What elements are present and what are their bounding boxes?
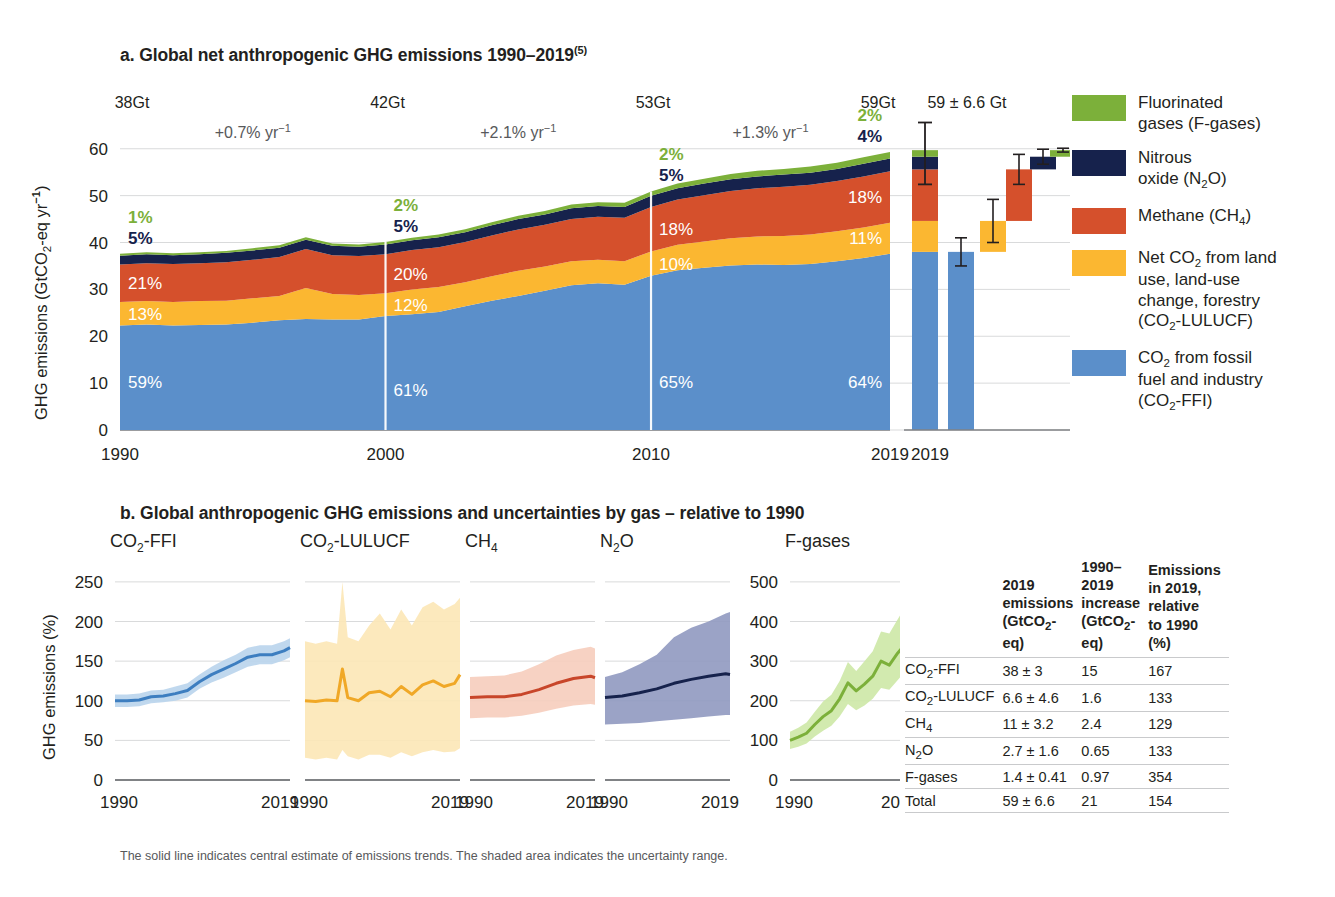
panel-b-xtick-N2O-start: 1990 bbox=[590, 793, 628, 812]
panel-a-xtick-2019: 2019 bbox=[871, 445, 909, 464]
panel-b-band-N2O bbox=[605, 612, 730, 725]
table-cell-emissions: 6.6 ± 4.6 bbox=[1002, 684, 1081, 711]
panel-b-ytick-F-gases-200: 200 bbox=[750, 692, 778, 711]
panel-b-ytick-F-gases-100: 100 bbox=[750, 731, 778, 750]
table-cell-relative: 129 bbox=[1148, 711, 1229, 738]
legend-item-fgases: Fluorinatedgases (F-gases) bbox=[1072, 93, 1334, 134]
panel-b-band-CH4 bbox=[470, 647, 595, 718]
table-cell-increase: 15 bbox=[1081, 657, 1148, 684]
table-row: CO2-LULUCF6.6 ± 4.61.6133 bbox=[905, 684, 1229, 711]
summary-table: 2019emissions(GtCO2-eq)1990–2019increase… bbox=[905, 558, 1229, 813]
panel-b-subplot-title-CO2-FFI: CO2-FFI bbox=[110, 531, 177, 555]
table-cell-increase: 0.65 bbox=[1081, 738, 1148, 765]
panel-a-title-superscript: (5) bbox=[574, 44, 587, 56]
panel-b-xtick-F-gases-start: 1990 bbox=[775, 793, 813, 812]
table-row: F-gases1.4 ± 0.410.97354 bbox=[905, 765, 1229, 789]
panel-a-chart: 010203040506038Gt42Gt53Gt59Gt+0.7% yr−1+… bbox=[0, 70, 1070, 470]
panel-a-growth-1: +2.1% yr−1 bbox=[480, 122, 556, 141]
panel-a-xtick-1990: 1990 bbox=[101, 445, 139, 464]
panel-a-waterfall-xtick: 2019 bbox=[911, 445, 949, 464]
panel-a-total-2010: 53Gt bbox=[636, 94, 671, 111]
panel-b-xtick-F-gases-end: 2019 bbox=[881, 793, 900, 812]
table-cell-increase: 2.4 bbox=[1081, 711, 1148, 738]
table-cell-emissions: 38 ± 3 bbox=[1002, 657, 1081, 684]
legend-swatch-fgases bbox=[1072, 95, 1126, 121]
table-row: CO2-FFI38 ± 315167 bbox=[905, 657, 1229, 684]
table-header-1: 2019emissions(GtCO2-eq) bbox=[1002, 558, 1081, 657]
panel-a-ytick-30: 30 bbox=[89, 280, 108, 299]
panel-b-band-F-gases bbox=[790, 598, 900, 749]
panel-b-ytick-F-gases-300: 300 bbox=[750, 652, 778, 671]
panel-a-share-n2o-1990: 5% bbox=[128, 229, 153, 248]
legend-item-lulucf: Net CO2 from landuse, land-usechange, fo… bbox=[1072, 248, 1334, 334]
panel-a-waterfall-total-seg-0 bbox=[912, 252, 938, 430]
panel-a-growth-0: +0.7% yr−1 bbox=[215, 122, 291, 141]
legend-item-ffi: CO2 from fossilfuel and industry(CO2-FFI… bbox=[1072, 348, 1334, 414]
panel-a-share-fgases-2019: 2% bbox=[857, 106, 882, 125]
figure-footnote: The solid line indicates central estimat… bbox=[120, 849, 728, 863]
panel-b-xtick-CO2-LULUCF-start: 1990 bbox=[290, 793, 328, 812]
panel-b-title: b. Global anthropogenic GHG emissions an… bbox=[120, 503, 804, 524]
table-cell-gas: N2O bbox=[905, 738, 1002, 765]
legend-label-fgases: Fluorinatedgases (F-gases) bbox=[1138, 93, 1261, 134]
panel-b-subplot-title-F-gases: F-gases bbox=[785, 531, 850, 551]
table-cell-gas: Total bbox=[905, 789, 1002, 813]
panel-b-band-CO2-LULUCF bbox=[305, 582, 460, 760]
panel-a-share-ffi-2019: 64% bbox=[848, 373, 882, 392]
panel-a-share-fgases-2010: 2% bbox=[659, 145, 684, 164]
panel-a-ytick-10: 10 bbox=[89, 374, 108, 393]
panel-b-subplot-title-CH4: CH4 bbox=[465, 531, 498, 555]
table-cell-gas: CO2-FFI bbox=[905, 657, 1002, 684]
table-cell-emissions: 59 ± 6.6 bbox=[1002, 789, 1081, 813]
panel-a-share-lulucf-2019: 11% bbox=[849, 229, 882, 248]
panel-a-share-n2o-2010: 5% bbox=[659, 166, 684, 185]
panel-b-charts: CO2-FFI05010015020025019902019CO2-LULUCF… bbox=[0, 525, 900, 845]
table-cell-increase: 1.6 bbox=[1081, 684, 1148, 711]
legend-label-n2o: Nitrousoxide (N2O) bbox=[1138, 148, 1227, 191]
table-cell-relative: 354 bbox=[1148, 765, 1229, 789]
table-cell-relative: 133 bbox=[1148, 684, 1229, 711]
panel-b-ytick-F-gases-400: 400 bbox=[750, 613, 778, 632]
panel-a-ytick-50: 50 bbox=[89, 187, 108, 206]
panel-a-ytick-20: 20 bbox=[89, 327, 108, 346]
legend-item-ch4: Methane (CH4) bbox=[1072, 206, 1334, 234]
panel-b-ytick-CO2-FFI-250: 250 bbox=[75, 573, 103, 592]
table-cell-emissions: 1.4 ± 0.41 bbox=[1002, 765, 1081, 789]
panel-a-share-ffi-1990: 59% bbox=[128, 373, 162, 392]
table-cell-relative: 133 bbox=[1148, 738, 1229, 765]
panel-b-xtick-N2O-end: 2019 bbox=[701, 793, 739, 812]
panel-b-title-text: b. Global anthropogenic GHG emissions an… bbox=[120, 503, 804, 523]
table-header-0 bbox=[905, 558, 1002, 657]
panel-a-xtick-2000: 2000 bbox=[367, 445, 405, 464]
legend-item-n2o: Nitrousoxide (N2O) bbox=[1072, 148, 1334, 191]
panel-b-ytick-CO2-FFI-200: 200 bbox=[75, 613, 103, 632]
panel-a-share-fgases-2000: 2% bbox=[394, 196, 419, 215]
panel-b-ytick-F-gases-0: 0 bbox=[769, 771, 778, 790]
panel-a-share-ffi-2010: 65% bbox=[659, 373, 693, 392]
table-cell-emissions: 11 ± 3.2 bbox=[1002, 711, 1081, 738]
panel-a-title-text: a. Global net anthropogenic GHG emission… bbox=[120, 45, 574, 65]
panel-b-subplot-title-N2O: N2O bbox=[600, 531, 634, 555]
table-cell-increase: 21 bbox=[1081, 789, 1148, 813]
panel-a-total-1990: 38Gt bbox=[115, 94, 150, 111]
panel-a-ytick-60: 60 bbox=[89, 140, 108, 159]
table-cell-gas: CO2-LULUCF bbox=[905, 684, 1002, 711]
panel-b-subplot-title-CO2-LULUCF: CO2-LULUCF bbox=[300, 531, 410, 555]
panel-a-share-lulucf-2010: 10% bbox=[659, 255, 693, 274]
panel-a-xtick-2010: 2010 bbox=[632, 445, 670, 464]
legend-label-lulucf: Net CO2 from landuse, land-usechange, fo… bbox=[1138, 248, 1277, 334]
legend-swatch-lulucf bbox=[1072, 250, 1126, 276]
table-cell-increase: 0.97 bbox=[1081, 765, 1148, 789]
panel-a-waterfall-bar-4 bbox=[1050, 150, 1070, 157]
panel-a-share-ch4-2000: 20% bbox=[394, 265, 428, 284]
table-row: CH411 ± 3.22.4129 bbox=[905, 711, 1229, 738]
panel-a-growth-2: +1.3% yr−1 bbox=[732, 122, 808, 141]
legend-swatch-ch4 bbox=[1072, 208, 1126, 234]
panel-b-ytick-CO2-FFI-150: 150 bbox=[75, 652, 103, 671]
panel-b-ytick-F-gases-500: 500 bbox=[750, 573, 778, 592]
panel-a-title: a. Global net anthropogenic GHG emission… bbox=[120, 44, 587, 66]
panel-a-share-ffi-2000: 61% bbox=[394, 381, 428, 400]
panel-a-ytick-40: 40 bbox=[89, 234, 108, 253]
panel-a-ytick-0: 0 bbox=[99, 421, 108, 440]
figure-root: a. Global net anthropogenic GHG emission… bbox=[0, 0, 1335, 897]
